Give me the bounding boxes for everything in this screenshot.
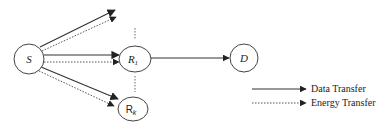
- edge-s-rk-energy: [39, 71, 114, 106]
- node-s-label: S: [26, 53, 32, 65]
- node-r1: R1: [119, 46, 151, 72]
- legend: Data Transfer Energy Transfer: [252, 83, 376, 108]
- edge-s-rk-data: [41, 67, 118, 99]
- legend-data-label: Data Transfer: [311, 83, 366, 94]
- node-d-label: D: [239, 52, 248, 64]
- node-rk: Rk: [118, 97, 148, 121]
- relay-diagram: S R1 Rk D Data Transfer Energy Transfer: [0, 0, 390, 130]
- legend-energy-label: Energy Transfer: [311, 97, 376, 108]
- node-s: S: [14, 44, 44, 74]
- edge-s-top-energy: [42, 17, 116, 51]
- node-d: D: [230, 44, 258, 72]
- edge-s-top-data: [40, 10, 115, 47]
